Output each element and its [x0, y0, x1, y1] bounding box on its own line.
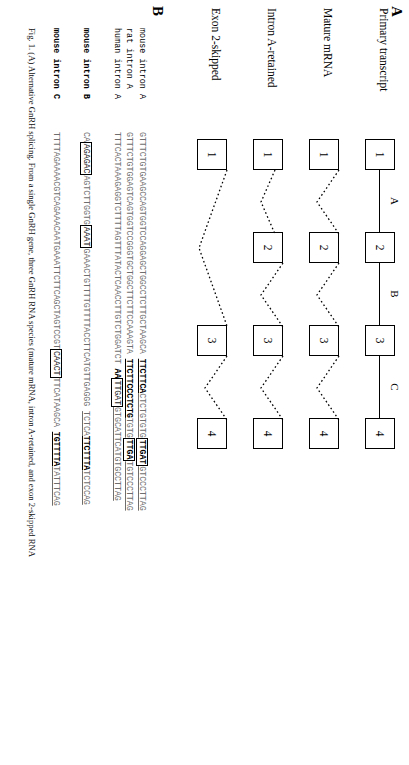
sequence-segment-ul-dark: TGTTTTA — [52, 432, 61, 467]
exon-box-4: 4 — [309, 418, 339, 449]
sequence-segment-ul-dark: TTCTTCA — [138, 359, 147, 394]
sequence-segment-boxed-plain: TTGAT — [111, 378, 123, 407]
sequence-row: rat intron AGTTTCTGTGGAGTCAGTGGTCCGGGTGC… — [122, 28, 135, 758]
sequence-segment-boxed-plain: CAACT — [50, 349, 62, 378]
sequence-row-bases: TTTCACTAAAGAGGTCTTTTAGTTTATACTCAACCTTGTC… — [113, 132, 122, 501]
figure-container: A Primary transcript A B C 1 2 3 4 Matur… — [0, 0, 409, 765]
sequence-segment-ul-gray: GTCCCTTAG — [138, 466, 147, 510]
sequence-row-label: rat intron A — [125, 28, 134, 132]
intron-label-c: C — [389, 378, 401, 396]
sequence-segment-bold: AA — [113, 369, 122, 379]
sequence-segment-boxed: TTGA — [123, 438, 135, 462]
exon-box-3: 3 — [197, 325, 227, 356]
panel-a-splicing-diagram: Primary transcript A B C 1 2 3 4 Mature … — [181, 0, 409, 765]
sequence-row-bases: TTTTAGAAAACGTCAGAAACAATGAAATTCTTCAGCTAGT… — [52, 132, 61, 506]
sequence-segment-ul-gray: TATTTCAG — [52, 466, 61, 505]
sequence-row-bases: GTTTCTGTGGAGTCAGTGGTCCGGGTGCTGGCTTCTTCCA… — [125, 132, 134, 511]
panel-b-letter: B — [149, 6, 166, 16]
track-primary-transcript: Primary transcript A B C 1 2 3 4 — [357, 0, 403, 765]
sequence-row: human intron ATTTCACTAAAGAGGTCTTTTAGTTTA… — [109, 28, 122, 758]
track-label: Primary transcript — [378, 8, 390, 91]
sequence-segment-ul-dark: TTCTTTA — [82, 436, 91, 471]
sequence-segment-gray: TTTTAGAAAACGTCAGAAACAATGAAATTCTTCAGCTAGT… — [52, 132, 61, 349]
sequence-row-spacer — [61, 28, 79, 758]
exon-box-3: 3 — [365, 325, 395, 356]
sequence-row: mouse intron CTTTTAGAAAACGTCAGAAACAATGAA… — [48, 28, 61, 758]
figure-caption: Fig. 1. (A) Alternative GnRH splicing. F… — [26, 28, 37, 754]
track-mature-mrna: Mature mRNA 1 2 3 4 — [301, 0, 347, 765]
track-label: Intron A-retained — [266, 8, 278, 88]
exon-box-4: 4 — [253, 418, 283, 449]
sequence-row: mouse intron BCAAGAGACAGTCTTGGTGAAATGAAA… — [79, 28, 92, 758]
sequence-segment-gray: GTTTCTGTGGAGTCAGTGGTCCGGGTGCTGGCTTCTTCCA… — [125, 132, 134, 359]
sequence-row-bases: CAAGAGACAGTCTTGGTGAAATGAAACTGTTTTGTTTTAC… — [82, 132, 91, 505]
sequence-segment-ul-gray: TCTCCAG — [82, 470, 91, 505]
sequence-row-label: mouse intron B — [82, 28, 91, 132]
exon-box-1: 1 — [365, 139, 395, 170]
exon-box-2: 2 — [253, 232, 283, 263]
exon-box-2: 2 — [365, 232, 395, 263]
sequence-segment-ul-dark: TTCTTCCCTCTG — [125, 359, 134, 418]
exon-box-1: 1 — [309, 139, 339, 170]
exon-box-2: 2 — [309, 232, 339, 263]
sequence-row-label: mouse intron A — [138, 28, 147, 132]
sequence-row-label: human intron A — [113, 28, 122, 132]
sequence-segment-gray: AGTCTTGGTG — [82, 175, 91, 224]
exon-box-4: 4 — [197, 418, 227, 449]
sequence-segment-gray: TTTCACTAAAGAGGTCTTTTAGTTTATACTCAACCTTGTC… — [113, 132, 122, 369]
sequence-segment-gray: GAAACTGTTTTGTTTTACCTTCATGTTGAGGG — [82, 248, 91, 411]
intron-line-b — [379, 263, 380, 325]
intron-line-c — [379, 356, 380, 418]
sequence-segment-gray: GTTTCTGTGAAGCCAGTGGTCCAGGAGCTGGCCTCTTGCT… — [138, 132, 147, 359]
sequence-row-spacer — [91, 28, 109, 758]
sequence-segment-gray: TTCATAAGCA — [52, 378, 61, 432]
intron-label-a: A — [389, 192, 401, 210]
exon-box-4: 4 — [365, 418, 395, 449]
sequence-row-label: mouse intron C — [52, 28, 61, 132]
intron-label-b: B — [389, 285, 401, 303]
track-label: Exon 2-skipped — [210, 8, 222, 81]
exon-box-1: 1 — [197, 139, 227, 170]
sequence-segment-boxed: TTGAT — [136, 438, 148, 467]
sequence-segment-ul-gray: GTGCATTCATGTGCCTTAG — [113, 407, 122, 501]
intron-line-a — [379, 170, 380, 232]
exon-box-1: 1 — [253, 139, 283, 170]
panel-b-sequence-alignment: mouse intron AGTTTCTGTGAAGCCAGTGGTCCAGGA… — [48, 28, 147, 758]
sequence-segment-ul-gray: CTCTGTGTG — [138, 393, 147, 437]
sequence-segment-ul-gray: TGTCCCTTAG — [125, 461, 134, 510]
sequence-segment-ul-gray: TGTG — [125, 418, 134, 438]
exon-box-3: 3 — [253, 325, 283, 356]
exon-box-3: 3 — [309, 325, 339, 356]
sequence-row-bases: GTTTCTGTGAAGCCAGTGGTCCAGGAGCTGGCCTCTTGCT… — [138, 132, 147, 511]
sequence-segment-gray: CA — [82, 132, 91, 142]
sequence-segment-boxed-plain: AAAT — [80, 225, 92, 249]
sequence-row: mouse intron AGTTTCTGTGAAGCCAGTGGTCCAGGA… — [134, 28, 147, 758]
sequence-segment-boxed-plain: AGAGAC — [80, 142, 92, 176]
track-label: Mature mRNA — [322, 8, 334, 77]
track-exon-2-skipped: Exon 2-skipped 1 3 4 — [189, 0, 235, 765]
track-intron-a-retained: Intron A-retained 1 2 3 4 — [245, 0, 291, 765]
sequence-segment-ul-gray: TCTCA — [82, 411, 91, 436]
